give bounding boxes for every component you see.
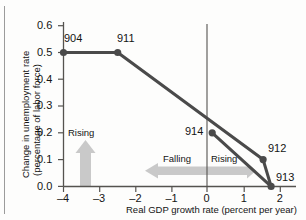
annotation-rising-vertical: Rising	[68, 128, 94, 138]
data-point-912[interactable]	[260, 156, 267, 163]
x-tick-label--1: –1	[165, 193, 177, 204]
point-label-911: 911	[117, 33, 135, 44]
data-point-914[interactable]	[209, 129, 216, 136]
x-tick-label--4: –4	[57, 193, 69, 204]
x-tick-label-0: 0	[204, 193, 210, 204]
x-tick-label-2: 2	[277, 193, 283, 204]
point-label-912: 912	[268, 143, 286, 154]
chart-figure: 0.6 0.5 0.4 0.3 0.2 0.1 0.0 –4 –3 –2 –1 …	[0, 0, 306, 220]
data-point-904[interactable]	[60, 49, 67, 56]
annotation-falling-horizontal: Falling	[163, 154, 191, 164]
data-point-911[interactable]	[114, 49, 121, 56]
data-point-913[interactable]	[268, 183, 275, 190]
y-tick-label-0.5: 0.5	[37, 47, 52, 58]
y-tick-label-0.0: 0.0	[37, 181, 52, 192]
y-tick-label-0.6: 0.6	[37, 20, 52, 31]
annotation-rising-horizontal: Rising	[211, 154, 237, 164]
x-tick-label-1: 1	[241, 193, 247, 204]
okun-curve-main	[64, 53, 272, 187]
rising-up-arrow-icon	[76, 140, 96, 186]
point-label-913: 913	[276, 172, 294, 183]
y-axis-title-line1: Change in unemployment rate	[20, 51, 31, 178]
x-tick-label--2: –2	[129, 193, 141, 204]
point-label-904: 904	[64, 33, 82, 44]
falling-rising-double-arrow-icon	[145, 163, 256, 179]
x-axis-title: Real GDP growth rate (percent per year)	[126, 205, 297, 215]
x-tick-label--3: –3	[93, 193, 105, 204]
y-axis-title-line2: (percentage of labor force)	[31, 64, 42, 176]
point-label-914: 914	[185, 126, 203, 137]
